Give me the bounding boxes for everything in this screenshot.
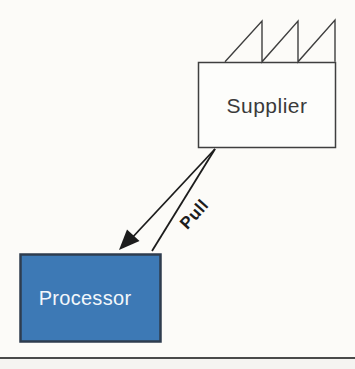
diagram-canvas: Supplier Pull Processor (0, 0, 355, 369)
supplier-label: Supplier (226, 94, 307, 117)
diagram-page: Supplier Pull Processor (0, 0, 355, 369)
processor-label: Processor (39, 287, 132, 309)
page-edge-strip (0, 359, 355, 369)
processor-node: Processor (21, 255, 161, 342)
